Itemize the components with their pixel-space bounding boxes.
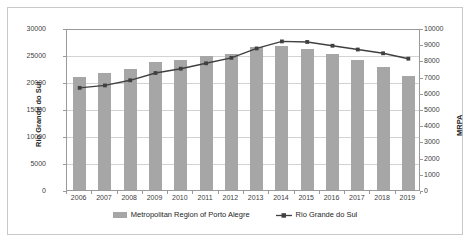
y-axis-right-tick-label: 0 — [424, 187, 464, 194]
line-marker — [154, 71, 158, 75]
line-marker — [103, 84, 107, 88]
line-marker — [255, 47, 259, 51]
x-axis-tick-mark — [369, 191, 370, 194]
line-marker — [78, 86, 82, 90]
chart-frame: 300002500020000150001000050000 100009000… — [7, 7, 463, 235]
x-axis-tick-mark — [142, 191, 143, 194]
y-axis-right-title: MRPA — [455, 114, 464, 136]
y-axis-left-tick-label: 5000 — [6, 160, 46, 167]
x-axis-tick-mark — [294, 191, 295, 194]
x-axis-tick-mark — [319, 191, 320, 194]
y-axis-right-tick-label: 8000 — [424, 57, 464, 64]
y-axis-left-tick-label: 30000 — [6, 25, 46, 32]
line-marker — [305, 40, 309, 44]
x-axis-tick-mark — [243, 191, 244, 194]
legend-line-marker-icon — [276, 212, 292, 219]
legend-label-bar: Metropolitan Region of Porto Alegre — [131, 211, 250, 219]
chart-legend: Metropolitan Region of Porto Alegre Rio … — [8, 211, 462, 219]
x-axis-tick-label: 2019 — [392, 194, 422, 202]
x-axis-tick-mark — [420, 191, 421, 194]
y-axis-right-tick-label: 1000 — [424, 171, 464, 178]
legend-item-line: Rio Grande do Sul — [276, 211, 358, 219]
y-axis-right-tick-label: 5000 — [424, 106, 464, 113]
plot-area — [66, 29, 420, 191]
line-marker — [280, 40, 284, 44]
line-marker — [381, 51, 385, 55]
x-axis-tick-mark — [344, 191, 345, 194]
y-axis-right-tick-label: 3000 — [424, 138, 464, 145]
y-axis-left-tick-label: 0 — [6, 187, 46, 194]
y-axis-right-tick-label: 9000 — [424, 41, 464, 48]
x-axis-tick-mark — [218, 191, 219, 194]
x-axis-tick-mark — [91, 191, 92, 194]
y-axis-right-tick-label: 2000 — [424, 155, 464, 162]
y-axis-right-tick-label: 6000 — [424, 90, 464, 97]
legend-bar-swatch-icon — [113, 212, 127, 218]
line-marker — [128, 78, 132, 82]
x-axis-tick-mark — [192, 191, 193, 194]
y-axis-right-tick-label: 7000 — [424, 74, 464, 81]
x-axis-tick-mark — [66, 191, 67, 194]
x-axis-tick-mark — [395, 191, 396, 194]
y-axis-left-tick-label: 25000 — [6, 52, 46, 59]
x-axis-tick-mark — [117, 191, 118, 194]
line-marker — [356, 48, 360, 52]
line-marker — [331, 44, 335, 48]
line-marker — [204, 61, 208, 65]
line-series-rio-grande-do-sul — [67, 29, 421, 191]
line-marker — [229, 56, 233, 60]
legend-label-line: Rio Grande do Sul — [296, 211, 358, 219]
y-axis-right-tick-label: 10000 — [424, 25, 464, 32]
line-marker — [406, 57, 410, 61]
x-axis-tick-mark — [167, 191, 168, 194]
legend-item-bar: Metropolitan Region of Porto Alegre — [113, 211, 250, 219]
y-axis-left-title: Rio Grande do Sul — [34, 82, 43, 147]
line-marker — [179, 67, 183, 71]
x-axis-tick-mark — [268, 191, 269, 194]
